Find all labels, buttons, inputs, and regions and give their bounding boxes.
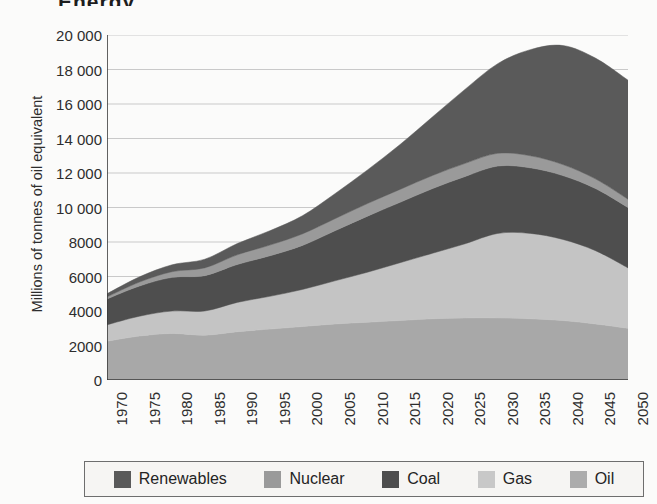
x-tick-label: 2045 xyxy=(601,392,618,425)
chart-legend: RenewablesNuclearCoalGasOil xyxy=(84,461,644,497)
legend-item-coal[interactable]: Coal xyxy=(382,470,440,488)
y-tick-label: 18 000 xyxy=(30,61,102,78)
legend-item-renewables[interactable]: Renewables xyxy=(114,470,227,488)
x-tick-label: 2020 xyxy=(439,392,456,425)
x-tick-label: 1975 xyxy=(146,392,163,425)
chart-figure: Energy Millions of tonnes of oil equival… xyxy=(0,0,657,504)
y-tick-label: 8000 xyxy=(30,234,102,251)
legend-swatch-icon xyxy=(264,471,281,488)
y-tick-label: 12 000 xyxy=(30,165,102,182)
x-tick-label: 1995 xyxy=(276,392,293,425)
y-tick-label: 0 xyxy=(30,372,102,389)
legend-item-gas[interactable]: Gas xyxy=(478,470,532,488)
y-tick-label: 14 000 xyxy=(30,130,102,147)
x-tick-label: 2025 xyxy=(471,392,488,425)
legend-swatch-icon xyxy=(570,471,587,488)
y-tick-label: 10 000 xyxy=(30,199,102,216)
legend-label: Renewables xyxy=(139,470,227,488)
legend-item-nuclear[interactable]: Nuclear xyxy=(264,470,344,488)
legend-label: Nuclear xyxy=(289,470,344,488)
legend-label: Oil xyxy=(595,470,615,488)
legend-swatch-icon xyxy=(382,471,399,488)
x-tick-label: 1990 xyxy=(243,392,260,425)
x-tick-label: 2040 xyxy=(569,392,586,425)
x-axis-tick-labels: 1970197519801985199019952000200520102015… xyxy=(107,392,628,462)
legend-swatch-icon xyxy=(478,471,495,488)
x-tick-label: 2035 xyxy=(536,392,553,425)
y-tick-label: 4000 xyxy=(30,303,102,320)
x-tick-label: 2000 xyxy=(308,392,325,425)
x-tick-label: 2015 xyxy=(406,392,423,425)
x-tick-label: 1985 xyxy=(211,392,228,425)
x-tick-label: 1980 xyxy=(178,392,195,425)
chart-title-cropped: Energy xyxy=(58,0,135,6)
legend-item-oil[interactable]: Oil xyxy=(570,470,615,488)
x-tick-label: 1970 xyxy=(113,392,130,425)
x-tick-label: 2010 xyxy=(374,392,391,425)
x-tick-label: 2030 xyxy=(504,392,521,425)
plot-area xyxy=(107,35,628,380)
y-tick-label: 20 000 xyxy=(30,27,102,44)
y-tick-label: 16 000 xyxy=(30,96,102,113)
legend-label: Gas xyxy=(503,470,532,488)
y-axis-tick-labels: 0200040006000800010 00012 00014 00016 00… xyxy=(28,35,102,380)
y-tick-label: 6000 xyxy=(30,268,102,285)
x-tick-label: 2005 xyxy=(341,392,358,425)
stacked-area-plot xyxy=(107,35,628,380)
legend-swatch-icon xyxy=(114,471,131,488)
y-tick-label: 2000 xyxy=(30,337,102,354)
x-tick-label: 2050 xyxy=(634,392,651,425)
legend-label: Coal xyxy=(407,470,440,488)
